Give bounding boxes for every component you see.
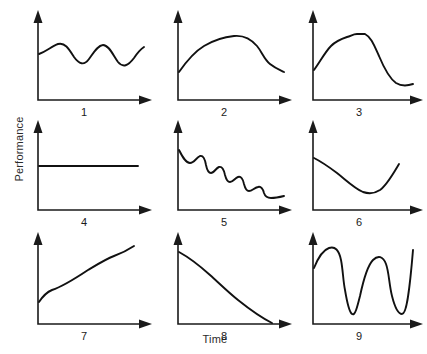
panel-1: 1	[14, 4, 154, 118]
y-axis-arrow-icon	[174, 232, 183, 245]
panel-7-curve	[39, 246, 134, 302]
panel-6-caption: 6	[289, 216, 427, 228]
panel-3-axes	[313, 20, 413, 100]
y-axis-arrow-icon	[34, 120, 43, 133]
panel-9: 9	[289, 228, 427, 342]
y-axis-arrow-icon	[174, 120, 183, 133]
x-axis-arrow-icon	[139, 206, 152, 215]
x-axis-arrow-icon	[410, 320, 423, 329]
panel-6-curve	[314, 158, 399, 193]
panel-1-plot	[14, 4, 154, 118]
panel-7-axes	[38, 242, 142, 324]
panel-9-curve	[314, 248, 413, 315]
panel-9-caption: 9	[289, 330, 427, 342]
panel-8-axes	[178, 242, 282, 324]
x-axis-arrow-icon	[139, 96, 152, 105]
panel-2: 2	[154, 4, 294, 118]
panel-8-curve	[179, 252, 272, 323]
y-axis-arrow-icon	[309, 120, 318, 133]
y-axis-arrow-icon	[309, 10, 318, 23]
y-axis-arrow-icon	[309, 232, 318, 245]
panel-3: 3	[289, 4, 427, 118]
panel-4: 4	[14, 114, 154, 228]
panel-2-plot	[154, 4, 294, 118]
y-axis-arrow-icon	[34, 10, 43, 23]
y-axis-arrow-icon	[34, 232, 43, 245]
panel-5-curve	[179, 150, 284, 198]
panel-2-curve	[179, 36, 284, 72]
panel-4-axes	[38, 130, 142, 210]
x-axis-arrow-icon	[410, 206, 423, 215]
panel-4-plot	[14, 114, 154, 228]
panel-4-caption: 4	[14, 216, 154, 228]
x-axis-arrow-icon	[410, 96, 423, 105]
panel-1-axes	[38, 20, 142, 100]
panel-7-caption: 7	[14, 330, 154, 342]
panel-5: 5	[154, 114, 294, 228]
panel-7: 7	[14, 228, 154, 342]
panel-8: 8	[154, 228, 294, 342]
panel-3-plot	[289, 4, 427, 118]
panel-6: 6	[289, 114, 427, 228]
panel-8-caption: 8	[154, 330, 294, 342]
panel-6-axes	[313, 130, 413, 210]
panel-5-axes	[178, 130, 282, 210]
panel-3-curve	[314, 34, 413, 85]
panel-5-caption: 5	[154, 216, 294, 228]
panel-1-curve	[39, 44, 144, 66]
y-axis-arrow-icon	[174, 10, 183, 23]
panel-5-plot	[154, 114, 294, 228]
x-axis-arrow-icon	[139, 320, 152, 329]
panel-6-plot	[289, 114, 427, 228]
